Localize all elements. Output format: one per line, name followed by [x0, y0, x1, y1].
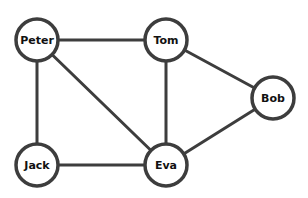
node-label: Peter	[20, 34, 54, 47]
node-tom: Tom	[145, 19, 187, 61]
node-label: Jack	[23, 159, 50, 172]
nodes-layer: PeterTomBobJackEva	[16, 19, 294, 186]
edge-peter-eva	[37, 40, 166, 165]
node-label: Tom	[153, 34, 178, 47]
node-bob: Bob	[252, 77, 294, 119]
node-jack: Jack	[16, 144, 58, 186]
node-eva: Eva	[145, 144, 187, 186]
node-peter: Peter	[16, 19, 58, 61]
graph-diagram: PeterTomBobJackEva	[0, 0, 308, 198]
node-label: Eva	[155, 159, 177, 172]
node-label: Bob	[261, 92, 285, 105]
